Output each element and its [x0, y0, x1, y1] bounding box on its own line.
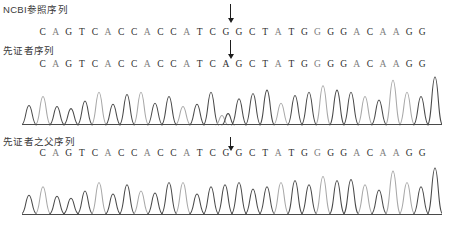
- sequence-base: G: [232, 59, 245, 69]
- sequence-base: A: [390, 59, 403, 69]
- sequence-base: T: [75, 148, 88, 158]
- sequence-base: G: [311, 148, 324, 158]
- sequence-text-proband: CAGTCACCACCATCAGCTATGGGGACAAGG: [36, 59, 429, 69]
- sequence-base: G: [62, 148, 75, 158]
- sequence-base: A: [101, 148, 114, 158]
- sequence-base: G: [324, 148, 337, 158]
- sequence-base: C: [88, 59, 101, 69]
- sequence-text-ncbi-reference: CAGTCACCACCATCGGCTATGGGGACAAGG: [36, 27, 429, 37]
- sequence-base: G: [416, 148, 429, 158]
- sequence-base: A: [49, 59, 62, 69]
- sequence-base: G: [324, 27, 337, 37]
- chromatogram-peak: [63, 198, 79, 214]
- chromatogram-peak: [231, 99, 247, 125]
- sequence-base: C: [206, 148, 219, 158]
- chromatogram-peak: [287, 181, 303, 215]
- sequence-base: G: [337, 59, 350, 69]
- chromatogram-peak: [343, 180, 359, 215]
- chromatogram-peak: [385, 80, 401, 125]
- sequence-base: T: [193, 27, 206, 37]
- chromatogram-peak: [189, 194, 205, 214]
- sequence-base: C: [246, 27, 259, 37]
- sequence-base: A: [350, 148, 363, 158]
- chromatogram-peak: [357, 185, 373, 214]
- sequence-base: C: [167, 148, 180, 158]
- chromatogram-peak: [343, 92, 359, 125]
- sequence-base: G: [298, 148, 311, 158]
- chromatogram-peak: [287, 96, 303, 126]
- chromatogram-peak: [259, 90, 275, 125]
- sequence-base: G: [403, 148, 416, 158]
- sequence-base: C: [36, 27, 49, 37]
- chromatogram-peak: [63, 109, 79, 125]
- sequence-base: C: [115, 27, 128, 37]
- chromatogram-peak: [273, 103, 289, 125]
- chromatogram-peak: [259, 187, 275, 214]
- sequence-base: G: [311, 59, 324, 69]
- sequence-base: A: [180, 27, 193, 37]
- sequence-base: A: [219, 59, 232, 69]
- chromatogram-peak: [175, 183, 191, 214]
- sequence-base: G: [324, 59, 337, 69]
- chromatogram-peak: [133, 92, 149, 125]
- sequence-base: A: [390, 148, 403, 158]
- sequence-base: A: [390, 27, 403, 37]
- sequence-base: G: [403, 27, 416, 37]
- sequence-base: C: [88, 148, 101, 158]
- chromatogram-peak: [77, 191, 93, 214]
- chromatogram-peak: [385, 171, 401, 214]
- trace-svg-father: [22, 165, 442, 215]
- chromatogram-peak: [301, 185, 317, 214]
- sequence-base: A: [376, 27, 389, 37]
- sequence-base: C: [246, 148, 259, 158]
- sequence-base: T: [193, 59, 206, 69]
- sequence-base: T: [193, 148, 206, 158]
- sequence-base: C: [363, 27, 376, 37]
- sequence-base: A: [272, 59, 285, 69]
- chromatogram-peak: [399, 92, 415, 125]
- mutation-arrow-proband: [226, 40, 235, 59]
- chromatogram-peak: [35, 97, 51, 125]
- chromatogram-peak: [147, 193, 163, 214]
- sequence-base: G: [403, 59, 416, 69]
- sequence-base: C: [115, 148, 128, 158]
- sequence-base: G: [219, 27, 232, 37]
- chromatogram-peak: [399, 183, 415, 214]
- sequence-base: T: [285, 27, 298, 37]
- chromatogram-peak: [105, 104, 121, 125]
- sequence-base: C: [154, 27, 167, 37]
- sequence-base: G: [232, 148, 245, 158]
- sequence-base: C: [363, 148, 376, 158]
- sequence-text-proband-father: CAGTCACCACCATCGGCTATGGGGACAAGG: [36, 148, 429, 158]
- chromatogram-peak: [315, 176, 331, 214]
- row-label-proband: 先证者序列: [3, 43, 55, 57]
- sequence-base: T: [259, 27, 272, 37]
- sequence-base: G: [298, 59, 311, 69]
- chromatogram-peak: [203, 187, 219, 214]
- sequence-base: T: [259, 59, 272, 69]
- chromatogram-peak: [119, 185, 135, 214]
- sequence-base: A: [49, 148, 62, 158]
- sequence-base: C: [154, 59, 167, 69]
- sequence-base: C: [246, 59, 259, 69]
- arrow-shaft: [230, 137, 231, 146]
- chromatogram-peak: [91, 183, 107, 214]
- chromatogram-peak: [301, 92, 317, 125]
- chromatogram-peak: [427, 168, 442, 214]
- row-label-ncbi-reference: NCBI参照序列: [3, 2, 68, 16]
- sequence-base: C: [363, 59, 376, 69]
- sequence-base: A: [350, 27, 363, 37]
- chromatogram-peak: [231, 183, 247, 214]
- sequence-base: C: [167, 59, 180, 69]
- chromatogram-peak: [329, 90, 345, 125]
- chromatogram-peak: [161, 183, 177, 214]
- chromatogram-peak: [175, 107, 191, 126]
- chromatogram-peak: [49, 107, 65, 126]
- chromatogram-peak: [329, 181, 345, 215]
- arrow-shaft: [230, 40, 231, 54]
- chromatogram-peak: [357, 97, 373, 125]
- mutation-arrow-reference: [226, 4, 235, 23]
- sequence-base: A: [101, 27, 114, 37]
- sequence-base: G: [62, 27, 75, 37]
- sequence-base: G: [337, 27, 350, 37]
